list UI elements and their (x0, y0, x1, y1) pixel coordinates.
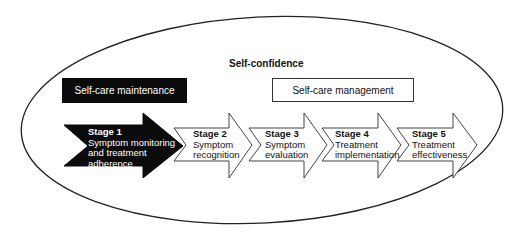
stage-2-line-2: recognition (193, 150, 239, 161)
stage-1-line-2: and treatment (88, 148, 175, 159)
self-care-management-label: Self-care management (292, 85, 393, 96)
self-care-maintenance-box: Self-care maintenance (62, 78, 187, 103)
self-care-management-box: Self-care management (272, 78, 414, 102)
stage-2-title: Stage 2 (193, 129, 239, 140)
stage-1-title: Stage 1 (88, 127, 175, 138)
stage-4-title: Stage 4 (335, 129, 399, 140)
stage-1-line-3: adherence (88, 159, 175, 170)
diagram-shapes (0, 0, 525, 232)
stage-4-line-2: implementation (335, 150, 399, 161)
self-confidence-ellipse (16, 5, 508, 232)
stage-4-text: Stage 4 Treatment implementation (335, 129, 399, 161)
stage-5-text: Stage 5 Treatment effectiveness (412, 129, 467, 161)
stage-1-text: Stage 1 Symptom monitoring and treatment… (88, 127, 175, 169)
stage-5-title: Stage 5 (412, 129, 467, 140)
self-care-maintenance-label: Self-care maintenance (74, 85, 174, 96)
stage-3-text: Stage 3 Symptom evaluation (265, 129, 308, 161)
stage-2-text: Stage 2 Symptom recognition (193, 129, 239, 161)
self-confidence-label: Self-confidence (229, 58, 303, 69)
stage-3-line-2: evaluation (265, 150, 308, 161)
stage-5-line-2: effectiveness (412, 150, 467, 161)
stage-3-title: Stage 3 (265, 129, 308, 140)
self-care-diagram: Self-confidence Self-care maintenance Se… (0, 0, 525, 232)
